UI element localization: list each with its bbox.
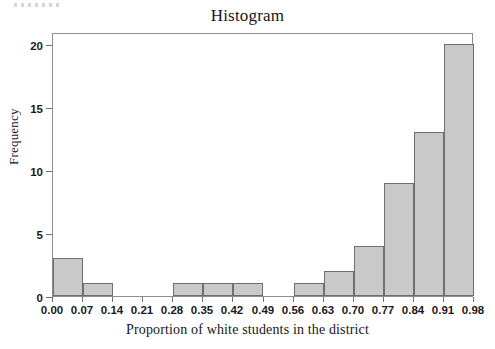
x-axis-tick-label: 0.56	[282, 304, 304, 316]
x-axis-tick-label: 0.98	[462, 304, 484, 316]
y-axis-tick-label: 0	[37, 292, 43, 304]
histogram-bar	[173, 283, 203, 296]
x-axis-tick	[383, 297, 384, 302]
plot-frame	[52, 33, 473, 297]
y-axis-title: Frequency	[6, 108, 22, 165]
histogram-bar	[83, 283, 113, 296]
x-axis-tick-label: 0.42	[221, 304, 243, 316]
histogram-bar	[203, 283, 233, 296]
x-axis-tick	[293, 297, 294, 302]
x-axis-tick	[353, 297, 354, 302]
x-axis-tick-label: 0.07	[71, 304, 93, 316]
y-axis-tick: 10	[46, 171, 52, 172]
y-axis-tick-label: 20	[30, 40, 43, 52]
x-axis-tick	[413, 297, 414, 302]
x-axis-tick	[52, 297, 53, 302]
x-axis-tick	[172, 297, 173, 302]
y-axis-tick: 20	[46, 45, 52, 46]
x-axis-tick-label: 0.35	[191, 304, 213, 316]
histogram-bar	[354, 246, 384, 296]
x-axis-tick-label: 0.70	[342, 304, 364, 316]
x-axis-tick-label: 0.84	[402, 304, 424, 316]
x-axis-tick-label: 0.21	[131, 304, 153, 316]
y-axis-tick-label: 5	[37, 229, 43, 241]
x-axis-tick	[82, 297, 83, 302]
histogram-bar	[233, 283, 263, 296]
x-axis-tick	[263, 297, 264, 302]
y-axis-tick-label: 15	[30, 103, 43, 115]
y-axis-line	[52, 33, 53, 297]
histogram-bar	[384, 183, 414, 296]
chart-title: Histogram	[0, 6, 495, 26]
y-axis-tick-label: 10	[30, 166, 43, 178]
x-axis-tick-label: 0.00	[41, 304, 63, 316]
histogram-bar	[324, 271, 354, 296]
x-axis-tick-label: 0.49	[252, 304, 274, 316]
x-axis-tick-label: 0.28	[161, 304, 183, 316]
x-axis-title: Proportion of white students in the dist…	[0, 322, 495, 338]
x-axis-tick	[443, 297, 444, 302]
x-axis-tick-label: 0.63	[312, 304, 334, 316]
x-axis-tick-label: 0.14	[101, 304, 123, 316]
histogram-figure: Histogram 05101520 Frequency 0.000.070.1…	[0, 0, 495, 349]
x-axis-tick	[473, 297, 474, 302]
y-axis-tick: 5	[46, 234, 52, 235]
x-axis-tick	[323, 297, 324, 302]
y-axis-tick: 15	[46, 108, 52, 109]
x-axis-tick	[142, 297, 143, 302]
histogram-bar	[444, 44, 474, 296]
x-axis-tick	[232, 297, 233, 302]
x-axis-tick	[202, 297, 203, 302]
histogram-bar	[414, 132, 444, 296]
plot-area	[53, 34, 472, 296]
x-axis-tick-label: 0.91	[432, 304, 454, 316]
x-axis-tick-label: 0.77	[372, 304, 394, 316]
x-axis-tick	[112, 297, 113, 302]
histogram-bar	[53, 258, 83, 296]
histogram-bar	[294, 283, 324, 296]
